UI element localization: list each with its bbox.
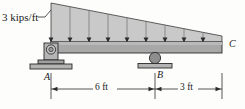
roller-support-b bbox=[138, 52, 172, 68]
arrowhead-c-left bbox=[216, 87, 222, 91]
arrowhead-b-left bbox=[149, 87, 155, 91]
dimension-label-right-span: 3 ft bbox=[180, 83, 193, 93]
dimension-label-left-span: 6 ft bbox=[95, 83, 108, 93]
support-b-label: B bbox=[157, 70, 163, 80]
arrowhead-a-right bbox=[52, 87, 58, 91]
beam-top-highlight bbox=[51, 42, 222, 45]
pin-circle-inner bbox=[49, 47, 53, 51]
beam-group bbox=[51, 42, 222, 53]
distributed-load-group bbox=[38, 3, 222, 43]
dimension-lines-group bbox=[51, 73, 222, 99]
roller-base-plate bbox=[138, 64, 172, 69]
load-magnitude-label: 3 kips/ft bbox=[2, 12, 38, 23]
roller-circle bbox=[149, 52, 160, 63]
point-c-label: C bbox=[229, 39, 236, 49]
arrowhead-b-right bbox=[156, 87, 162, 91]
triangular-load-area bbox=[51, 3, 222, 42]
pin-support-base-lower bbox=[30, 64, 72, 69]
load-label-leader-line bbox=[38, 10, 51, 17]
beam-diagram-figure: 3 kips/ft A B C 6 ft 3 ft bbox=[0, 0, 245, 109]
pin-support-base-upper bbox=[38, 60, 64, 64]
support-a-label: A bbox=[44, 72, 50, 82]
